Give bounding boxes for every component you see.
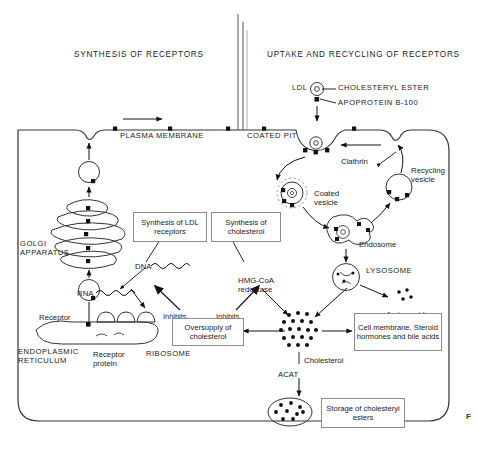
coated-vesicle	[277, 178, 307, 208]
pit-to-coated-vesicle-arrow	[277, 157, 305, 180]
lysosome	[333, 264, 360, 291]
inhibits-ldl-receptor-arrow	[155, 286, 180, 310]
box-storage-cholesteryl-esters: Storage of cholesteryl esters	[321, 398, 405, 428]
ldl-pathway-figure: SYNTHESIS OF RECEPTORS UPTAKE AND RECYCL…	[0, 0, 477, 456]
coated-vesicle-label: Coated vesicle	[314, 189, 339, 207]
lysosome-to-amino-acids-arrow	[360, 285, 388, 297]
ldl-particle	[311, 83, 337, 122]
receptor-label: Receptor	[39, 313, 71, 322]
lysosome-to-cholesterol-arrow	[315, 288, 347, 317]
box-synthesis-ldl-receptors: Synthesis of LDL receptors	[133, 212, 207, 242]
cholesterol-synthesis-box-connector	[232, 240, 244, 262]
receptor-protein-label: Receptor protein	[93, 350, 125, 368]
endoplasmic-reticulum-label: ENDOPLASMIC RETICULUM	[18, 348, 79, 366]
rna-label: RNA	[77, 289, 93, 298]
top-divider-lines	[238, 14, 247, 130]
golgi-apparatus-label: GOLGI APPARATUS	[20, 240, 69, 258]
ldl-label: LDL	[292, 84, 307, 93]
dna-label: DNA	[135, 262, 151, 271]
dna-squiggle	[151, 264, 190, 269]
ribosomes	[97, 312, 155, 322]
coated-vesicle-to-endosome-arrow	[303, 207, 329, 228]
clathrin-leader-line	[381, 152, 396, 163]
ldl-receptor-box-connector	[146, 240, 160, 262]
golgi-to-membrane-vesicle	[79, 162, 100, 198]
cholesteryl-ester-label: CHOLESTERYL ESTER	[338, 84, 429, 93]
ribosome-label: RIBOSOME	[146, 350, 191, 359]
cholesterol-pool	[279, 311, 318, 347]
coated-pit-label: COATED PIT	[247, 132, 297, 141]
rna-translation-arrow	[131, 289, 145, 308]
endosome-label: Endosome	[359, 240, 396, 249]
header-uptake-recycling: UPTAKE AND RECYCLING OF RECEPTORS	[267, 50, 460, 60]
cholesterol-label: Cholesterol	[304, 356, 343, 365]
endoplasmic-reticulum	[36, 321, 158, 344]
plasma-membrane-label: PLASMA MEMBRANE	[120, 132, 204, 141]
lysosome-label: LYSOSOME	[366, 267, 412, 276]
hmg-coa-reductase-label: HMG-CoA reductase	[238, 276, 274, 294]
box-oversupply-of-cholesterol: Oversupply of cholesterol	[172, 318, 244, 346]
plasma-membrane-line	[18, 130, 428, 151]
acat-label: ACAT	[278, 370, 298, 379]
box-synthesis-cholesterol: Synthesis of cholesterol	[211, 212, 281, 242]
recycling-to-membrane-arrow	[398, 145, 403, 173]
recycling-vesicle	[386, 174, 412, 201]
figure-marker: F	[466, 412, 471, 421]
lipid-droplet	[268, 398, 312, 426]
recycling-vesicle-label: Recycling vesicle	[411, 166, 445, 184]
header-synthesis-of-receptors: SYNTHESIS OF RECEPTORS	[74, 50, 204, 60]
rna-squiggle	[96, 291, 135, 296]
apoprotein-b100-label: APOPROTEIN B-100	[338, 99, 418, 108]
box-cell-membrane-destinations: Cell membrane, Steroid hormones and bile…	[354, 313, 442, 351]
ldl-bound-in-coated-pit	[303, 137, 329, 155]
endosome-to-recycling-arrow	[371, 203, 390, 223]
amino-acid-dots	[397, 288, 413, 301]
golgi-transport-squares	[84, 206, 90, 263]
clathrin-label: Clathrin	[341, 157, 368, 166]
